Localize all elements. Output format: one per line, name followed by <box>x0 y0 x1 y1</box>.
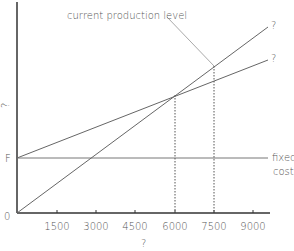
svg-text:3000: 3000 <box>83 221 108 232</box>
current-production-label: current production level <box>67 10 187 21</box>
costs-label: costs <box>273 166 294 177</box>
y-axis-label: ? <box>0 103 11 108</box>
upper-line <box>17 27 268 213</box>
x-axis-label: ? <box>141 238 146 249</box>
leader-line <box>167 17 214 66</box>
break-even-chart: current production level ? ? fixed costs… <box>0 0 294 251</box>
lower-line <box>17 60 268 158</box>
svg-text:7500: 7500 <box>201 221 226 232</box>
svg-text:1500: 1500 <box>44 221 69 232</box>
origin-label: 0 <box>4 211 10 222</box>
lower-line-label: ? <box>271 53 276 64</box>
upper-line-label: ? <box>271 20 276 31</box>
svg-text:9000: 9000 <box>240 221 265 232</box>
f-label: F <box>5 153 11 164</box>
fixed-label: fixed <box>272 152 294 163</box>
svg-text:4500: 4500 <box>122 221 147 232</box>
x-tick-labels: 1500 3000 4500 6000 7500 9000 <box>44 221 265 232</box>
svg-text:6000: 6000 <box>162 221 187 232</box>
